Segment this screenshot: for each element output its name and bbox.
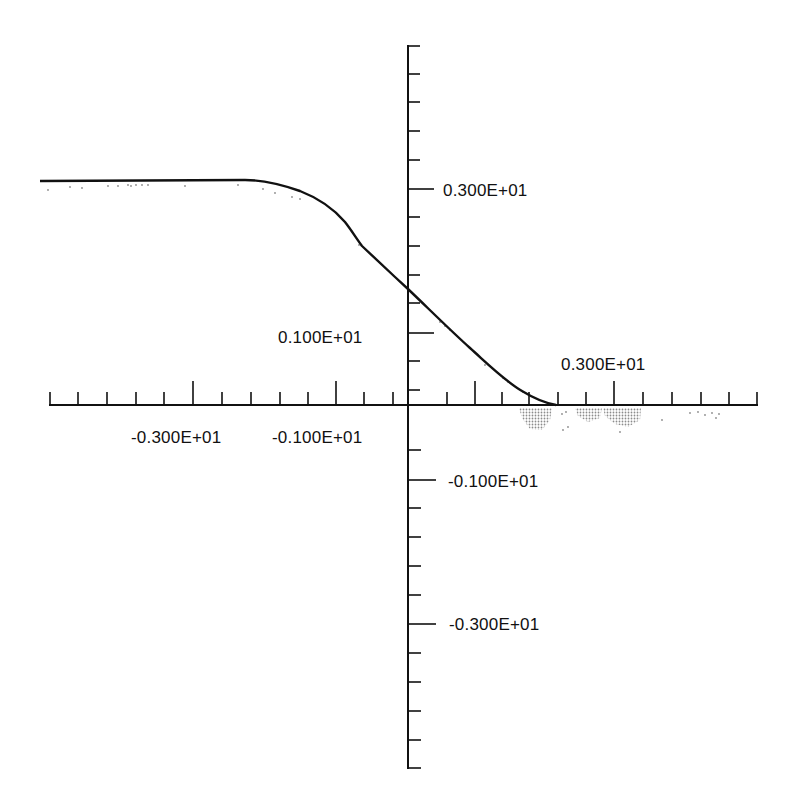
stipple-shading xyxy=(47,184,720,433)
chart-plot-area xyxy=(0,0,802,810)
y-tick-label-1: 0.100E+01 xyxy=(278,329,363,346)
y-tick-label-neg-1: -0.100E+01 xyxy=(448,473,538,490)
x-tick-label-neg-3: -0.300E+01 xyxy=(131,429,221,446)
curve-line xyxy=(40,180,556,405)
x-tick-label-pos-3: 0.300E+01 xyxy=(561,356,646,373)
y-axis-ticks xyxy=(408,46,436,768)
x-axis-ticks xyxy=(50,381,757,405)
y-tick-label-3: 0.300E+01 xyxy=(443,182,528,199)
x-tick-label-neg-1: -0.100E+01 xyxy=(272,429,362,446)
y-tick-label-neg-3: -0.300E+01 xyxy=(449,616,539,633)
